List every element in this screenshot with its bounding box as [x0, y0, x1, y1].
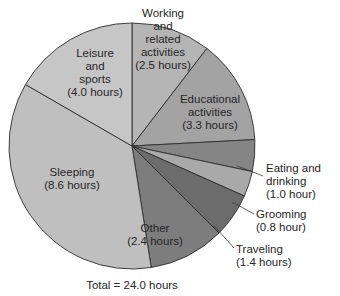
slice-label-line: (3.3 hours): [182, 119, 238, 131]
pie-slices: [9, 23, 255, 269]
slice-label-line: Leisure: [76, 47, 114, 59]
slice-label-line: Eating and: [266, 162, 321, 174]
slice-label-line: (8.6 hours): [44, 179, 100, 191]
slice-label-traveling: Traveling(1.4 hours): [236, 243, 292, 268]
slice-label-line: (1.4 hours): [236, 256, 292, 268]
slice-label-line: (0.8 hour): [256, 221, 306, 233]
slice-label-line: Traveling: [236, 243, 283, 255]
slice-label-line: related: [145, 33, 180, 45]
slice-label-line: and: [85, 60, 104, 72]
slice-label-line: Grooming: [256, 208, 307, 220]
slice-label-line: sports: [79, 73, 111, 85]
slice-label-line: (4.0 hours): [67, 86, 123, 98]
slice-label-line: Sleeping: [50, 166, 95, 178]
slice-label-line: (1.0 hour): [266, 188, 316, 200]
slice-label-line: activities: [188, 106, 232, 118]
slice-label-line: (2.4 hours): [127, 235, 183, 247]
slice-label-educational-activities: Educationalactivities(3.3 hours): [180, 93, 240, 131]
slice-label-line: Other: [141, 222, 170, 234]
slice-label-sleeping: Sleeping(8.6 hours): [44, 166, 100, 191]
slice-label-line: (2.5 hours): [135, 59, 191, 71]
slice-label-eating-and-drinking: Eating anddrinking(1.0 hour): [266, 162, 321, 200]
slice-label-grooming: Grooming(0.8 hour): [256, 208, 307, 233]
total-label: Total = 24.0 hours: [86, 279, 178, 291]
slice-label-line: activities: [141, 46, 185, 58]
slice-label-line: and: [153, 20, 172, 32]
slice-label-line: Working: [142, 7, 184, 19]
pie-chart: Workingandrelatedactivities(2.5 hours)Ed…: [0, 0, 340, 296]
slice-label-line: Educational: [180, 93, 240, 105]
slice-label-line: drinking: [266, 175, 306, 187]
